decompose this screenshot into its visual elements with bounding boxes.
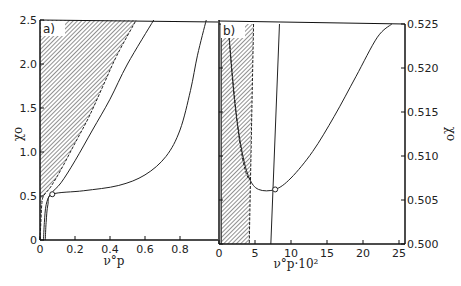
marker-open-circle (273, 187, 278, 192)
x-tick-label: 20 (356, 247, 370, 260)
x-axis-label: ν°p·10² (274, 257, 319, 271)
x-tick-label: 0.6 (136, 243, 154, 256)
top-border (219, 21, 405, 24)
y-axis-label: χo (444, 127, 458, 142)
hatched-region (40, 20, 136, 240)
y-tick-label: 0.510 (407, 150, 439, 163)
marker-open-circle (50, 192, 55, 197)
y-tick-label: 2.0 (20, 58, 38, 71)
y-tick-label: 0.500 (407, 238, 439, 251)
y-tick-label: 0.505 (407, 194, 439, 207)
y-tick-label: 0.520 (407, 62, 439, 75)
figure: 00.51.01.52.02.500.20.40.60.8χoν°pa) 0.5… (0, 0, 461, 286)
y-tick-label: 0.525 (407, 18, 439, 31)
x-axis-label: ν°p (104, 254, 125, 268)
panel-tag: a) (43, 22, 55, 36)
panel-tag: b) (223, 24, 235, 38)
x-tick-label: 0.2 (66, 243, 84, 256)
series-3 (271, 24, 280, 244)
panel-a: 00.51.01.52.02.500.20.40.60.8χoν°pa) (11, 14, 218, 268)
y-tick-label: 1.5 (20, 102, 38, 115)
x-tick-label: 15 (320, 247, 334, 260)
x-tick-label: 0 (37, 243, 44, 256)
x-tick-label: 0 (216, 247, 223, 260)
panel-b: 0.5000.5050.5100.5150.5200.5250510152025… (216, 18, 459, 271)
x-tick-label: 5 (252, 247, 259, 260)
y-tick-label: 1.0 (20, 146, 38, 159)
y-tick-label: 0.515 (407, 106, 439, 119)
y-axis-label: χo (11, 127, 25, 142)
hatched-band (221, 24, 253, 244)
y-tick-label: 0.5 (20, 190, 38, 203)
x-tick-label: 0.8 (171, 243, 189, 256)
y-tick-label: 2.5 (20, 14, 38, 27)
x-tick-label: 25 (392, 247, 406, 260)
